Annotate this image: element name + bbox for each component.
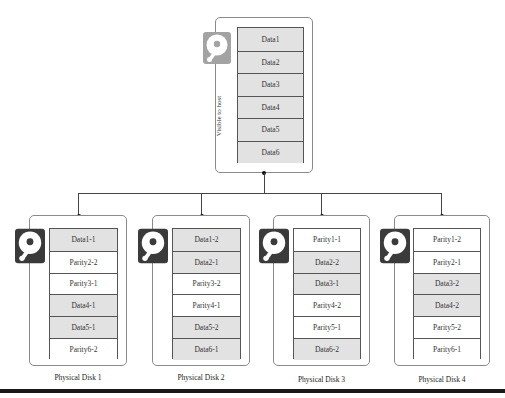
- disk-3-cell-stack: Parity1-1 Data2-2 Data3-1 Parity4-2 Pari…: [293, 228, 361, 359]
- disk-cell: Data5-2: [173, 316, 240, 338]
- disk-cell: Data2-1: [173, 251, 240, 273]
- host-cell: Data3: [238, 73, 303, 96]
- disk-cell: Parity2-1: [414, 251, 480, 273]
- disk-cell: Data6-1: [173, 338, 240, 360]
- disk-cell: Data4-2: [414, 294, 480, 316]
- disk-cell: Parity2-2: [50, 251, 117, 273]
- host-cell-stack: Data1 Data2 Data3 Data4 Data5 Data6: [237, 27, 304, 163]
- disk-cell: Parity1-2: [414, 229, 480, 251]
- disk-cell: Data6-2: [294, 338, 360, 360]
- disk-cell: Data4-1: [50, 294, 117, 316]
- disk-4-cell-stack: Parity1-2 Parity2-1 Data3-2 Data4-2 Pari…: [413, 228, 481, 359]
- disk-cell: Parity3-1: [50, 273, 117, 295]
- connector-trunk: [264, 173, 265, 193]
- bottom-divider: [0, 389, 505, 393]
- connector-bus: [78, 193, 442, 194]
- connector-drop-disk1: [78, 193, 79, 215]
- hard-disk-icon: [15, 228, 45, 264]
- disk-cell: Data5-1: [50, 316, 117, 338]
- disk-cell: Parity4-1: [173, 294, 240, 316]
- connector-drop-disk3: [321, 193, 322, 215]
- disk-cell: Data1-1: [50, 229, 117, 251]
- physical-disk-2-label: Physical Disk 2: [152, 373, 250, 382]
- host-cell: Data1: [238, 28, 303, 51]
- disk-cell: Data3-1: [294, 273, 360, 295]
- hard-disk-icon: [259, 228, 289, 264]
- disk-cell: Parity6-1: [414, 338, 480, 360]
- connector-drop-disk4: [441, 193, 442, 215]
- host-cell: Data4: [238, 96, 303, 119]
- disk-cell: Data2-2: [294, 251, 360, 273]
- connector-drop-disk2: [201, 193, 202, 215]
- disk-cell: Data1-2: [173, 229, 240, 251]
- visible-to-host-label: Visible to host: [215, 88, 223, 144]
- host-cell: Data2: [238, 51, 303, 74]
- hard-disk-icon: [203, 32, 231, 64]
- disk-cell: Parity5-1: [294, 316, 360, 338]
- physical-disk-3-label: Physical Disk 3: [273, 375, 370, 384]
- physical-disk-1-label: Physical Disk 1: [29, 373, 127, 382]
- disk-cell: Parity1-1: [294, 229, 360, 251]
- disk-2-cell-stack: Data1-2 Data2-1 Parity3-2 Parity4-1 Data…: [172, 228, 241, 359]
- host-cell: Data6: [238, 141, 303, 164]
- hard-disk-icon: [138, 228, 168, 264]
- disk-cell: Parity4-2: [294, 294, 360, 316]
- host-cell: Data5: [238, 118, 303, 141]
- physical-disk-4-label: Physical Disk 4: [394, 375, 490, 384]
- disk-cell: Parity3-2: [173, 273, 240, 295]
- disk-cell: Parity6-2: [50, 338, 117, 360]
- hard-disk-icon: [380, 228, 410, 264]
- disk-cell: Data3-2: [414, 273, 480, 295]
- disk-1-cell-stack: Data1-1 Parity2-2 Parity3-1 Data4-1 Data…: [49, 228, 118, 359]
- disk-cell: Parity5-2: [414, 316, 480, 338]
